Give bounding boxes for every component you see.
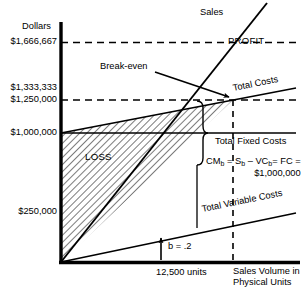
profit-region-label: PROFIT (228, 36, 264, 46)
x-axis-title-line2: Physical Units (233, 277, 300, 288)
y-tick-label-1250000: $1,250,000 (0, 95, 57, 105)
formula-fc: = FC = (272, 156, 300, 166)
break-even-label: Break-even (100, 62, 148, 72)
y-tick-label-1666667: $1,666,667 (0, 37, 57, 47)
variable-cost-slope-label: b = .2 (168, 242, 192, 252)
formula-vc: – VC (245, 156, 268, 166)
break-even-chart: Dollars $1,666,667 $1,333,333 $1,250,000… (0, 0, 303, 292)
x-tick-label-12500: 12,500 units (156, 268, 207, 278)
y-tick-label-1333333: $1,333,333 (0, 83, 57, 93)
y-axis-title: Dollars (22, 22, 51, 32)
y-tick-label-250000: $250,000 (0, 207, 57, 217)
loss-region-label: LOSS (85, 152, 112, 162)
sales-line-label: Sales (200, 8, 223, 18)
formula-s: = S (224, 156, 241, 166)
contribution-margin-formula: CMb = Sb – VCb= FC = $1,000,000 (206, 156, 301, 179)
total-fixed-costs-label: Total Fixed Costs (215, 137, 286, 147)
formula-cm: CM (206, 156, 220, 166)
formula-amount: $1,000,000 (206, 168, 301, 179)
x-axis-title-line1: Sales Volume in (233, 266, 300, 277)
loss-region-fill (61, 100, 233, 262)
break-even-arrow (155, 72, 229, 97)
y-tick-label-1000000: $1,000,000 (0, 128, 57, 138)
x-axis-title: Sales Volume in Physical Units (233, 266, 300, 288)
